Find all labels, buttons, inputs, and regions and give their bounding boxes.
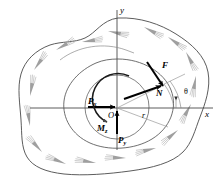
moment-Mz-base: M xyxy=(97,123,105,133)
mechanics-diagram-figure: y x O F N Px Py Mz r θ xyxy=(0,0,224,187)
diagram-canvas xyxy=(0,0,224,187)
force-Px-subscript: x xyxy=(94,101,97,107)
y-axis-label: y xyxy=(120,6,124,15)
theta-label: θ xyxy=(184,88,188,96)
moment-Mz-label: Mz xyxy=(97,124,107,134)
origin-label: O xyxy=(108,111,114,120)
force-Py-subscript: y xyxy=(124,140,127,146)
x-axis-label: x xyxy=(205,110,209,119)
force-N-label: N xyxy=(156,89,163,98)
force-Px-label: Px xyxy=(88,97,97,107)
body-outline xyxy=(19,18,209,175)
force-F-label: F xyxy=(162,61,168,70)
force-Py-label: Py xyxy=(118,136,126,146)
radius-label: r xyxy=(142,112,145,120)
moment-Mz-subscript: z xyxy=(105,128,107,134)
